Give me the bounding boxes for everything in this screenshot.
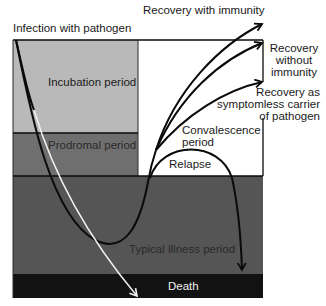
incubation-label: Incubation period [48, 76, 136, 88]
recovery-carrier-line3: of pathogen [198, 110, 320, 122]
recovery-carrier-line1: Recovery as [198, 86, 320, 98]
death-label: Death [168, 280, 199, 292]
relapse-label: Relapse [169, 158, 211, 170]
convalescence-label: Convalescence period [182, 124, 261, 148]
recovery-with-immunity-label: Recovery with immunity [143, 4, 264, 16]
recovery-without-immunity-label: Recovery without immunity [266, 42, 322, 78]
recovery-without-line1: Recovery [266, 42, 322, 54]
prodromal-label: Prodromal period [48, 139, 136, 151]
typical-illness-label: Typical illness period [129, 243, 235, 255]
infection-label: Infection with pathogen [13, 22, 131, 34]
death-region [13, 274, 263, 298]
disease-course-diagram: Infection with pathogen Incubation perio… [0, 0, 326, 306]
recovery-without-line2: without [266, 54, 322, 66]
convalescence-line1: Convalescence [182, 124, 261, 136]
recovery-carrier-label: Recovery as symptomless carrier of patho… [198, 86, 320, 122]
convalescence-line2: period [182, 136, 261, 148]
recovery-carrier-line2: symptomless carrier [198, 98, 320, 110]
recovery-without-line3: immunity [266, 66, 322, 78]
typical-illness-region [13, 176, 263, 274]
